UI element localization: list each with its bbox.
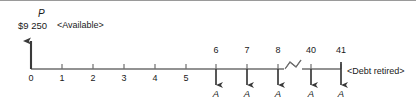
tick-label-8: 8 bbox=[268, 46, 288, 55]
tick-label-7: 7 bbox=[237, 46, 257, 55]
tick-label-41: 41 bbox=[331, 46, 351, 55]
tick-label-6: 6 bbox=[206, 46, 226, 55]
tick-label-0: 0 bbox=[21, 74, 41, 83]
annuity-label-6: A bbox=[206, 89, 226, 99]
present-value-symbol: P bbox=[38, 9, 45, 19]
tick-label-4: 4 bbox=[145, 74, 165, 83]
annuity-label-8: A bbox=[268, 89, 288, 99]
axis-break-zigzag bbox=[284, 60, 302, 69]
debt-retired-tag: <Debt retired> bbox=[347, 67, 405, 76]
annuity-label-41: A bbox=[331, 89, 351, 99]
tick-label-2: 2 bbox=[83, 74, 103, 83]
tick-label-3: 3 bbox=[114, 74, 134, 83]
tick-label-40: 40 bbox=[301, 46, 321, 55]
available-tag: <Available> bbox=[57, 21, 104, 30]
present-value-amount: $9 250 bbox=[18, 21, 47, 31]
cash-flow-diagram: P $9 250 <Available> 0 1 2 3 4 5 6 7 8 4… bbox=[0, 0, 416, 105]
tick-label-1: 1 bbox=[52, 74, 72, 83]
tick-label-5: 5 bbox=[176, 74, 196, 83]
annuity-label-7: A bbox=[237, 89, 257, 99]
annuity-label-40: A bbox=[301, 89, 321, 99]
